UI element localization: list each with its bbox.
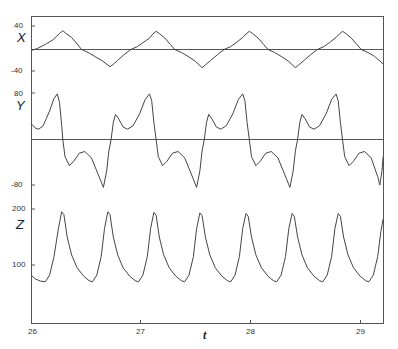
t-tick-label-28: 28 bbox=[246, 327, 255, 336]
z-tick-label-200: 200 bbox=[12, 204, 26, 213]
t-tick-label-29: 29 bbox=[356, 327, 365, 336]
x-tick-label-minus40: -40 bbox=[11, 66, 23, 75]
panel-label-y: Y bbox=[16, 98, 26, 113]
plot-frame bbox=[31, 16, 384, 324]
z-tick-label-100: 100 bbox=[12, 260, 26, 269]
t-tick-label-27: 27 bbox=[136, 327, 145, 336]
series-y-curve bbox=[31, 94, 383, 187]
time-series-chart: 40 -40 80 -80 200 100 X Y Z 26 27 28 29 … bbox=[0, 0, 398, 349]
panel-label-x: X bbox=[16, 30, 27, 45]
y-tick-label-80: 80 bbox=[14, 89, 23, 98]
panel-label-z: Z bbox=[15, 217, 25, 232]
y-tick-label-minus80: -80 bbox=[11, 180, 23, 189]
t-tick-label-26: 26 bbox=[28, 327, 37, 336]
x-axis-title: t bbox=[203, 328, 207, 342]
x-tick-label-40: 40 bbox=[14, 21, 23, 30]
series-z-curve bbox=[31, 212, 383, 282]
